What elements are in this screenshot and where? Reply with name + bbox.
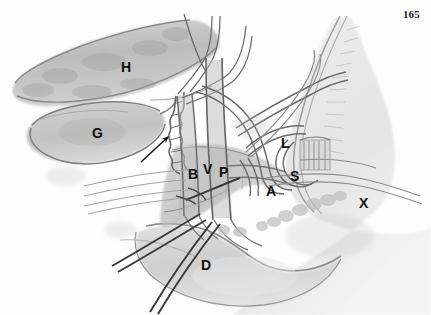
label-D: D — [201, 258, 211, 272]
label-H: H — [121, 60, 131, 74]
figure-page: H G B V P L S A X D 165 — [0, 0, 431, 315]
label-S: S — [290, 169, 299, 183]
label-G: G — [92, 126, 103, 140]
anatomy-illustration — [0, 0, 431, 315]
label-A: A — [266, 184, 276, 198]
resected-stump — [300, 137, 330, 170]
label-V: V — [203, 162, 212, 176]
page-number: 165 — [403, 8, 420, 20]
label-P: P — [219, 165, 228, 179]
label-B: B — [188, 167, 198, 181]
label-L: L — [281, 136, 290, 150]
label-X: X — [359, 196, 368, 210]
